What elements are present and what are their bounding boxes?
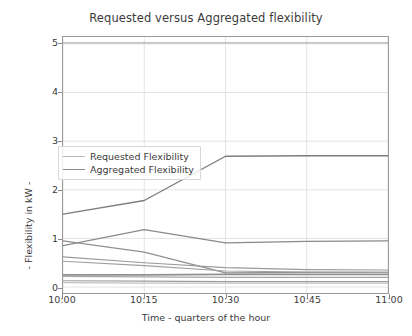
y-tick-mark — [58, 190, 62, 191]
legend-swatch-requested — [63, 156, 85, 157]
x-tick-label: 11:00 — [359, 294, 412, 305]
x-tick-mark — [226, 294, 227, 298]
legend-swatch-aggregated — [63, 169, 85, 170]
y-tick-mark — [58, 43, 62, 44]
x-tick-mark — [62, 294, 63, 298]
x-tick-mark — [307, 294, 308, 298]
y-tick-mark — [58, 141, 62, 142]
x-tick-mark — [144, 294, 145, 298]
y-tick-mark — [58, 92, 62, 93]
x-axis-label: Time - quarters of the hour — [0, 312, 412, 323]
chart-legend: Requested Flexibility Aggregated Flexibi… — [58, 146, 201, 180]
legend-item-requested: Requested Flexibility — [63, 150, 194, 163]
legend-label-aggregated: Aggregated Flexibility — [90, 164, 194, 175]
legend-label-requested: Requested Flexibility — [90, 151, 189, 162]
chart-figure: Requested versus Aggregated flexibility … — [0, 0, 412, 336]
x-tick-mark — [389, 294, 390, 298]
y-tick-mark — [58, 239, 62, 240]
legend-item-aggregated: Aggregated Flexibility — [63, 163, 194, 176]
y-tick-mark — [58, 288, 62, 289]
